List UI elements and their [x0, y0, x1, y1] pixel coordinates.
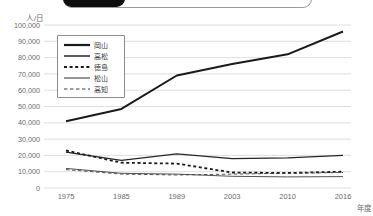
- legend-label: 高知: [94, 84, 108, 94]
- y-tick-label: 30,000: [18, 135, 40, 144]
- legend-item: 松山: [64, 74, 119, 83]
- x-tick-label: 1975: [58, 192, 75, 201]
- legend-label: 高松: [94, 51, 108, 61]
- legend-label: 松山: [94, 73, 108, 83]
- y-tick-label: 40,000: [18, 118, 40, 127]
- line-chart: 010,00020,00030,00040,00050,00060,00070,…: [0, 0, 373, 216]
- x-tick-label: 2016: [335, 192, 352, 201]
- x-tick-label: 2003: [224, 192, 241, 201]
- chart-legend: 岡山高松徳島松山高知: [57, 35, 125, 98]
- legend-label: 岡山: [94, 40, 108, 50]
- y-tick-label: 20,000: [18, 151, 40, 160]
- y-tick-label: 90,000: [18, 37, 40, 46]
- legend-line-sample: [64, 53, 90, 59]
- legend-line-sample: [64, 75, 90, 81]
- legend-item: 高松: [64, 51, 119, 60]
- legend-line-sample: [64, 64, 90, 70]
- series-line-高松: [66, 152, 343, 160]
- y-tick-label: 70,000: [18, 70, 40, 79]
- screenshot-root: 人/日 010,00020,00030,00040,00050,00060,00…: [0, 0, 373, 216]
- y-tick-label: 50,000: [18, 102, 40, 111]
- legend-line-sample: [64, 86, 90, 92]
- y-tick-label: 100,000: [14, 21, 40, 30]
- x-tick-label: 2010: [279, 192, 296, 201]
- legend-item: 岡山: [64, 40, 119, 49]
- legend-item: 高知: [64, 85, 119, 94]
- x-axis-title: 年度: [357, 202, 371, 213]
- y-tick-label: 0: [36, 184, 40, 193]
- legend-label: 徳島: [94, 62, 108, 72]
- y-tick-label: 60,000: [18, 86, 40, 95]
- y-tick-label: 80,000: [18, 53, 40, 62]
- series-line-徳島: [66, 151, 343, 174]
- y-tick-label: 10,000: [18, 167, 40, 176]
- x-tick-label: 1985: [113, 192, 130, 201]
- x-tick-label: 1989: [168, 192, 185, 201]
- legend-item: 徳島: [64, 62, 119, 71]
- legend-line-sample: [64, 42, 90, 48]
